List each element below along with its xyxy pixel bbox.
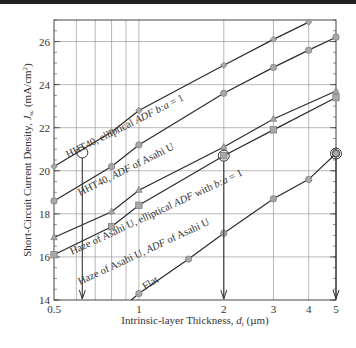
square-marker	[221, 152, 227, 158]
series-labels: HHT40, elliptical ADF b:a = 1HHT40, ADF …	[64, 92, 244, 292]
circle-marker	[270, 64, 276, 70]
y-axis-title: Short-Circuit Current Density, Jsc (mA/c…	[21, 63, 35, 257]
plot-frame	[54, 20, 336, 300]
y-tick-label: 22	[39, 122, 50, 134]
x-tick-label: 0.5	[47, 303, 61, 315]
square-marker	[270, 127, 276, 133]
chart-canvas: 141618202224260.512345 HHT40, elliptical…	[0, 0, 356, 348]
circle-marker	[185, 256, 191, 262]
x-axis-title: Intrinsic-layer Thickness, di (µm)	[121, 314, 269, 328]
x-tick-label: 3	[271, 303, 277, 315]
circle-marker	[51, 198, 57, 204]
circle-marker	[136, 142, 142, 148]
axis-ticks: 141618202224260.512345	[39, 20, 339, 315]
square-marker	[136, 202, 142, 208]
diamond-marker	[221, 62, 227, 68]
triangle-marker	[108, 208, 114, 214]
y-tick-label: 24	[39, 79, 51, 91]
x-tick-label: 5	[333, 303, 339, 315]
square-marker	[51, 252, 57, 258]
series-label-3: Haze of Asahi U, ADF of Asahi U	[76, 216, 211, 287]
circle-marker	[333, 150, 339, 156]
plot-border	[54, 20, 336, 300]
triangle-marker	[333, 87, 339, 93]
circle-marker	[333, 34, 339, 40]
circle-marker	[270, 196, 276, 202]
y-tick-label: 16	[39, 251, 51, 263]
x-tick-label: 4	[306, 303, 312, 315]
circle-marker	[305, 176, 311, 182]
diamond-marker	[51, 163, 57, 169]
grid-lines	[54, 20, 336, 300]
data-series	[51, 19, 339, 300]
circle-marker	[221, 90, 227, 96]
circle-marker	[305, 47, 311, 53]
series-label-4: Flat	[140, 274, 160, 292]
y-tick-label: 18	[39, 208, 51, 220]
square-marker	[333, 94, 339, 100]
series-line	[54, 91, 336, 237]
y-tick-label: 26	[39, 36, 51, 48]
circle-marker	[136, 290, 142, 296]
y-tick-label: 20	[39, 165, 51, 177]
